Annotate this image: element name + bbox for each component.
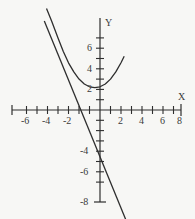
x-tick-label-4: 4	[139, 116, 144, 126]
y-tick-label-4: 4	[87, 64, 92, 74]
y-tick-label-6: 6	[87, 43, 92, 53]
x-tick-label--2: -2	[63, 116, 71, 126]
y-tick-label--4: -4	[80, 146, 88, 156]
x-tick-label--6: -6	[21, 116, 29, 126]
y-axis-label: Y	[105, 18, 112, 28]
x-tick-label--4: -4	[42, 116, 50, 126]
graph-container: -6 -4 -2 2 4 6 8 6 4 2 -4 -6 -8 X Y	[0, 0, 195, 219]
x-tick-label-8: 8	[177, 116, 182, 126]
x-tick-label-6: 6	[160, 116, 165, 126]
y-tick-label-2: 2	[87, 84, 92, 94]
y-tick-label--6: -6	[80, 167, 88, 177]
y-tick-label--8: -8	[80, 197, 88, 207]
parabola-graph	[47, 9, 125, 88]
x-axis-label: X	[178, 92, 185, 102]
coordinate-plane	[0, 0, 195, 219]
x-tick-label-2: 2	[118, 116, 123, 126]
